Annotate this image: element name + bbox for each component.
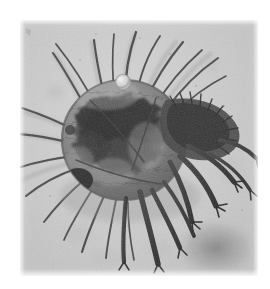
exposure-overlay — [20, 20, 258, 276]
micrograph-image — [20, 20, 258, 276]
page-canvas — [0, 0, 270, 289]
micrograph-plate — [20, 20, 258, 276]
